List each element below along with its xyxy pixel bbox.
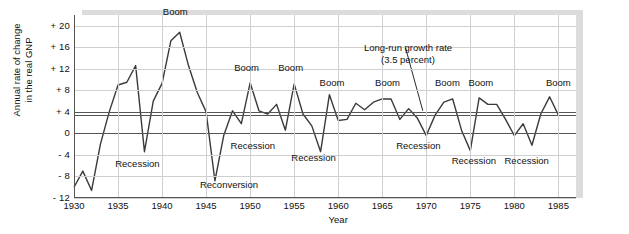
y-axis-title: Annual rate of changein the real GNP	[11, 0, 35, 145]
annotation-recession-1: Recession	[115, 158, 159, 169]
x-tick-1940: 1940	[151, 200, 172, 211]
x-tick-1980: 1980	[504, 200, 525, 211]
y-tick-8: + 8	[56, 84, 70, 95]
x-tick-1950: 1950	[240, 200, 261, 211]
callout-line-1: Long-run growth rate	[364, 42, 452, 54]
y-axis-title-line-1: Annual rate of change	[11, 0, 23, 145]
annotation-recession-9: Recession	[396, 140, 440, 151]
x-tick-1970: 1970	[416, 200, 437, 211]
callout-line-2: (3.5 percent)	[364, 54, 452, 66]
annotation-recession-11: Recession	[452, 155, 496, 166]
annotation-boom-0: Boom	[163, 6, 188, 17]
x-tick-1955: 1955	[284, 200, 305, 211]
annotation-boom-14: Boom	[546, 77, 571, 88]
x-tick-1975: 1975	[460, 200, 481, 211]
annotation-boom-8: Boom	[375, 77, 400, 88]
x-tick-1935: 1935	[107, 200, 128, 211]
y-tick-0: 0	[65, 127, 70, 138]
y-tick--4: - 4	[58, 149, 70, 160]
annotation-recession-13: Recession	[504, 155, 548, 166]
x-tick-1960: 1960	[328, 200, 349, 211]
annotation-boom-5: Boom	[278, 62, 303, 73]
y-tick-20: + 20	[50, 20, 70, 31]
x-tick-1985: 1985	[548, 200, 569, 211]
y-tick--8: - 8	[58, 170, 70, 181]
annotation-boom-12: Boom	[468, 77, 493, 88]
annotation-reconversion-2: Reconversion	[200, 179, 258, 190]
annotation-boom-3: Boom	[234, 62, 259, 73]
gnp-growth-figure: + 20+ 16+ 12+ 8+ 40- 4- 8- 12 1930193519…	[0, 0, 629, 234]
y-axis-tick-labels: + 20+ 16+ 12+ 8+ 40- 4- 8- 12	[0, 0, 629, 234]
y-tick-12: + 12	[50, 63, 70, 74]
long-run-growth-callout: Long-run growth rate (3.5 percent)	[364, 42, 452, 65]
x-tick-1930: 1930	[63, 200, 84, 211]
annotation-recession-6: Recession	[291, 152, 335, 163]
annotation-boom-10: Boom	[435, 77, 460, 88]
annotation-boom-7: Boom	[320, 77, 345, 88]
x-axis-title: Year	[329, 214, 348, 225]
y-axis-title-line-2: in the real GNP	[23, 0, 35, 145]
x-tick-1965: 1965	[372, 200, 393, 211]
x-tick-1945: 1945	[196, 200, 217, 211]
y-tick-4: + 4	[56, 106, 70, 117]
annotation-recession-4: Recession	[231, 140, 275, 151]
y-tick-16: + 16	[50, 41, 70, 52]
